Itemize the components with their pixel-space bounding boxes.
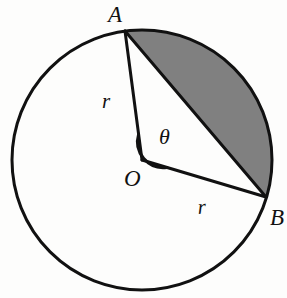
radius-segment-oa <box>125 31 142 160</box>
label-center-o: O <box>124 166 141 191</box>
circle-segment-figure: A B O r r θ <box>0 0 287 298</box>
geometry-diagram-canvas: A B O r r θ <box>0 0 287 298</box>
label-point-a: A <box>106 2 123 27</box>
label-angle-theta: θ <box>159 124 170 149</box>
label-radius-ob: r <box>197 195 207 219</box>
label-radius-oa: r <box>102 89 111 113</box>
label-point-b: B <box>270 205 284 230</box>
